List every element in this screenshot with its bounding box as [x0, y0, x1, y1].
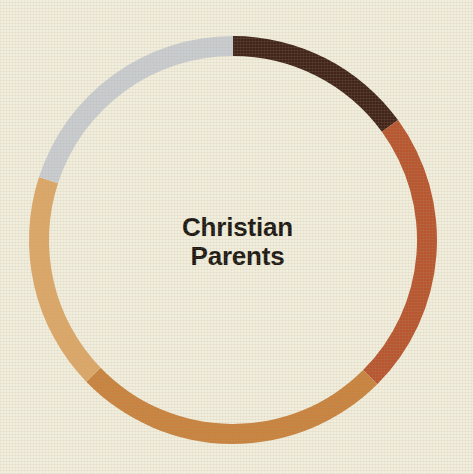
donut-chart-figure: Christian Parents	[0, 0, 473, 474]
chart-background	[0, 0, 473, 474]
donut-slice-group	[0, 0, 473, 474]
donut-ring-svg	[0, 0, 473, 474]
